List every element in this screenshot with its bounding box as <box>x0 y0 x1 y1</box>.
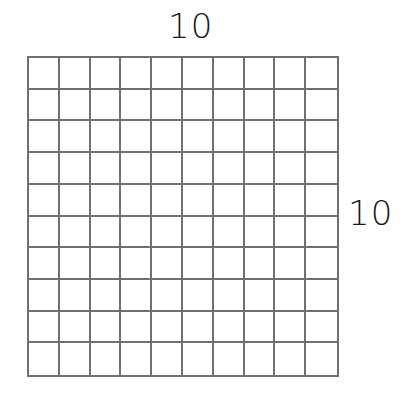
grid-cell <box>183 58 214 90</box>
grid-cell <box>245 248 276 280</box>
grid-cell <box>306 280 337 312</box>
grid-cell <box>214 121 245 153</box>
grid-cell <box>121 343 152 375</box>
grid-cell <box>121 185 152 217</box>
grid-cell <box>29 153 60 185</box>
grid-cell <box>306 312 337 344</box>
grid-cell <box>306 58 337 90</box>
grid-cell <box>245 121 276 153</box>
grid-cell <box>121 280 152 312</box>
grid-cell <box>152 121 183 153</box>
grid-cell <box>29 58 60 90</box>
grid-cell <box>152 185 183 217</box>
grid-cell <box>275 90 306 122</box>
grid-cell <box>214 185 245 217</box>
grid-cell <box>91 58 122 90</box>
grid-cell <box>121 90 152 122</box>
grid-cell <box>245 343 276 375</box>
grid-cell <box>275 248 306 280</box>
grid-cell <box>214 312 245 344</box>
grid-cell <box>91 121 122 153</box>
grid-cell <box>183 280 214 312</box>
grid-cell <box>60 280 91 312</box>
grid-cell <box>60 58 91 90</box>
grid-cell <box>183 185 214 217</box>
grid-cell <box>91 280 122 312</box>
grid-cell <box>245 185 276 217</box>
hundred-grid <box>27 56 339 377</box>
grid-cell <box>214 217 245 249</box>
grid-cell <box>183 121 214 153</box>
grid-cell <box>121 248 152 280</box>
grid-cell <box>91 153 122 185</box>
grid-cell <box>29 343 60 375</box>
grid-cell <box>183 312 214 344</box>
grid-cell <box>60 185 91 217</box>
grid-cell <box>29 248 60 280</box>
grid-cell <box>91 312 122 344</box>
grid-cell <box>245 90 276 122</box>
grid-cell <box>306 121 337 153</box>
grid-cell <box>183 343 214 375</box>
grid-cell <box>306 185 337 217</box>
grid-cell <box>29 90 60 122</box>
grid-cell <box>60 153 91 185</box>
grid-cell <box>29 217 60 249</box>
grid-cell <box>60 312 91 344</box>
grid-cell <box>152 343 183 375</box>
grid-cell <box>306 217 337 249</box>
grid-cell <box>152 90 183 122</box>
grid-cell <box>306 248 337 280</box>
width-label: 10 <box>168 9 213 43</box>
grid-cell <box>275 121 306 153</box>
grid-cell <box>214 90 245 122</box>
grid-cell <box>306 90 337 122</box>
grid-cell <box>275 312 306 344</box>
grid-cell <box>214 248 245 280</box>
grid-cell <box>29 280 60 312</box>
grid-cell <box>121 217 152 249</box>
grid-cell <box>275 280 306 312</box>
grid-cell <box>245 58 276 90</box>
grid-cell <box>183 248 214 280</box>
grid-cell <box>29 185 60 217</box>
grid-cell <box>245 312 276 344</box>
grid-cell <box>91 185 122 217</box>
grid-cell <box>245 217 276 249</box>
grid-cell <box>183 153 214 185</box>
grid-cell <box>152 312 183 344</box>
grid-cell <box>29 121 60 153</box>
grid-cell <box>214 343 245 375</box>
grid-cell <box>60 248 91 280</box>
grid-cell <box>121 58 152 90</box>
grid-cell <box>29 312 60 344</box>
grid-cell <box>60 90 91 122</box>
grid-cell <box>152 248 183 280</box>
grid-cell <box>245 280 276 312</box>
grid-cell <box>91 343 122 375</box>
grid-cell <box>245 153 276 185</box>
grid-cell <box>214 58 245 90</box>
grid-cell <box>306 343 337 375</box>
grid-cell <box>60 121 91 153</box>
grid-cell <box>306 153 337 185</box>
grid-cell <box>121 153 152 185</box>
grid-cell <box>183 217 214 249</box>
grid-cell <box>121 312 152 344</box>
grid-cell <box>91 217 122 249</box>
grid-cell <box>275 185 306 217</box>
grid-cell <box>152 58 183 90</box>
grid-cell <box>214 153 245 185</box>
grid-cell <box>152 280 183 312</box>
grid-cell <box>121 121 152 153</box>
grid-cell <box>275 153 306 185</box>
grid-cell <box>183 90 214 122</box>
grid-cell <box>60 217 91 249</box>
grid-cell <box>152 153 183 185</box>
grid-cell <box>275 217 306 249</box>
grid-cell <box>275 58 306 90</box>
grid-cell <box>60 343 91 375</box>
grid-cell <box>152 217 183 249</box>
grid-cell <box>91 248 122 280</box>
grid-cell <box>275 343 306 375</box>
